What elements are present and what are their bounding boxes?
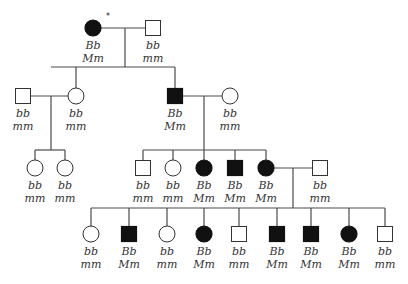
genotype-m-label: mm [220,120,241,133]
unaffected-female-circle-icon [159,226,175,242]
genotype-b-label: Bb [268,245,284,258]
individual-I-2: bbmm [143,21,164,66]
genotype-b-label: bb [136,179,150,192]
affected-male-square-icon [228,161,243,176]
individual-IV-5: bbmm [229,227,250,272]
genotype-b-label: bb [69,107,83,120]
genotype-b-label: Bb [84,39,100,52]
genotype-m-label: Mm [265,258,288,271]
individual-III-5: BbMm [192,160,215,205]
genotype-b-label: bb [58,179,72,192]
individual-IV-3: bbmm [157,226,178,271]
genotype-m-label: mm [81,258,102,271]
unaffected-female-circle-icon [222,88,238,104]
proband-asterisk-marker: * [106,12,110,21]
individual-II-4: bbmm [220,88,241,133]
genotype-b-label: Bb [195,179,211,192]
genotype-b-label: bb [146,39,160,52]
genotype-b-label: bb [160,245,174,258]
genotype-b-label: Bb [340,245,356,258]
affected-male-square-icon [270,227,285,242]
unaffected-male-square-icon [313,161,328,176]
unaffected-male-square-icon [146,21,161,36]
individual-III-2: bbmm [55,160,76,205]
genotype-b-label: Bb [226,179,242,192]
genotype-m-label: Mm [337,258,360,271]
unaffected-male-square-icon [378,227,393,242]
genotype-b-label: bb [16,107,30,120]
genotype-b-label: bb [28,179,42,192]
genotype-b-label: Bb [120,245,136,258]
affected-female-circle-icon [341,226,357,242]
genotype-b-label: Bb [257,179,273,192]
individual-IV-2: BbMm [117,227,140,272]
genotype-b-label: bb [223,107,237,120]
individual-III-7: BbMm [254,160,277,205]
affected-female-circle-icon [258,160,274,176]
genotype-b-label: bb [313,179,327,192]
individual-IV-8: BbMm [337,226,360,271]
genotype-b-label: bb [166,179,180,192]
unaffected-female-circle-icon [165,160,181,176]
individual-II-2: bbmm [66,88,87,133]
genotype-m-label: Mm [81,52,104,65]
genotype-m-label: Mm [299,258,322,271]
affected-female-circle-icon [196,226,212,242]
genotype-m-label: mm [157,258,178,271]
genotype-b-label: bb [232,245,246,258]
genotype-b-label: Bb [195,245,211,258]
individual-III-1: bbmm [25,160,46,205]
individual-IV-9: bbmm [375,227,396,272]
unaffected-female-circle-icon [68,88,84,104]
affected-female-circle-icon [196,160,212,176]
genotype-m-label: mm [55,192,76,205]
affected-male-square-icon [168,89,183,104]
unaffected-female-circle-icon [57,160,73,176]
genotype-m-label: Mm [192,192,215,205]
affected-male-square-icon [122,227,137,242]
genotype-m-label: Mm [163,120,186,133]
unaffected-female-circle-icon [27,160,43,176]
genotype-m-label: mm [229,258,250,271]
individual-IV-6: BbMm [265,227,288,272]
genotype-m-label: mm [25,192,46,205]
individual-IV-4: BbMm [192,226,215,271]
genotype-m-label: mm [310,192,331,205]
genotype-b-label: Bb [166,107,182,120]
unaffected-female-circle-icon [83,226,99,242]
genotype-m-label: mm [133,192,154,205]
genotype-m-label: Mm [192,258,215,271]
individual-IV-7: BbMm [299,227,322,272]
genotype-m-label: mm [163,192,184,205]
individual-IV-1: bbmm [81,226,102,271]
unaffected-male-square-icon [232,227,247,242]
genotype-m-label: mm [13,120,34,133]
individual-III-3: bbmm [133,161,154,206]
individual-II-1: bbmm [13,89,34,134]
affected-male-square-icon [304,227,319,242]
affected-female-circle-icon [85,20,101,36]
genotype-b-label: bb [84,245,98,258]
genotype-m-label: Mm [223,192,246,205]
unaffected-male-square-icon [16,89,31,104]
genotype-m-label: mm [143,52,164,65]
unaffected-male-square-icon [136,161,151,176]
genotype-m-label: Mm [117,258,140,271]
individual-III-4: bbmm [163,160,184,205]
individual-III-8: bbmm [310,161,331,206]
genotype-m-label: mm [375,258,396,271]
genotype-m-label: mm [66,120,87,133]
individual-II-3: BbMm [163,89,186,134]
individual-III-6: BbMm [223,161,246,206]
individual-I-1: BbMm* [81,12,110,65]
pedigree-chart: BbMm*bbmmbbmmbbmmBbMmbbmmbbmmbbmmbbmmbbm… [0,0,408,284]
genotype-b-label: Bb [302,245,318,258]
genotype-m-label: Mm [254,192,277,205]
genotype-b-label: bb [378,245,392,258]
